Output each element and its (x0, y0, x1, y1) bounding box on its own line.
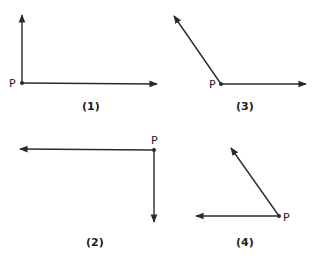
vertex-label: P (9, 77, 16, 90)
diagram-3: P (3) (174, 16, 306, 113)
vertex-point (219, 82, 223, 86)
diagram-1: P (1) (9, 15, 157, 113)
diagram-caption: (1) (82, 100, 100, 113)
vertex-label: P (151, 134, 158, 147)
vertex-point (20, 81, 24, 85)
diagram-caption: (3) (236, 100, 254, 113)
ray-up-left (231, 148, 279, 216)
diagram-4: P (4) (196, 148, 290, 249)
vertex-point (152, 148, 156, 152)
diagram-caption: (2) (86, 236, 104, 249)
ray-up-left (174, 16, 221, 84)
angle-diagrams: P (1) P (3) P (2) P (4) (0, 0, 318, 261)
diagram-caption: (4) (236, 236, 254, 249)
ray-left (20, 149, 154, 150)
vertex-label: P (209, 78, 216, 91)
vertex-point (277, 214, 281, 218)
vertex-label: P (283, 211, 290, 224)
diagram-2: P (2) (20, 134, 158, 249)
ray-right (22, 83, 157, 84)
